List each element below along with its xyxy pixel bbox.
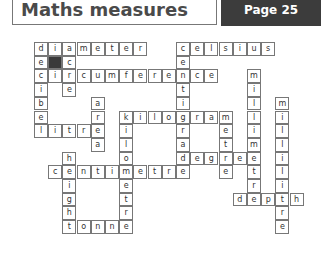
crossword-cell: m <box>219 111 233 125</box>
crossword-cell: i <box>247 83 261 97</box>
crossword-cell: p <box>261 193 275 207</box>
crossword-cell: s <box>219 42 233 56</box>
crossword-cell: t <box>275 193 289 207</box>
crossword-cell: d <box>176 152 190 166</box>
crossword-cell: h <box>62 152 76 166</box>
crossword-cell: l <box>247 111 261 125</box>
crossword-cell: e <box>176 56 190 70</box>
crossword-cell: e <box>119 179 133 193</box>
page-title: Maths measures <box>21 0 188 20</box>
crossword-cell: c <box>176 42 190 56</box>
crossword-cell: e <box>91 42 105 56</box>
crossword-cell: m <box>77 42 91 56</box>
title-box: Maths measures <box>12 0 217 25</box>
crossword-cell: b <box>34 97 48 111</box>
crossword-cell: e <box>190 152 204 166</box>
crossword-cell: e <box>34 56 48 70</box>
crossword-cell: m <box>247 69 261 83</box>
crossword-cell: l <box>247 97 261 111</box>
crossword-cell: r <box>91 111 105 125</box>
crossword-cell: g <box>176 111 190 125</box>
crossword-cell: i <box>48 69 62 83</box>
crossword-cell: r <box>77 124 91 138</box>
crossword-cell: r <box>190 111 204 125</box>
crossword-cell: i <box>34 83 48 97</box>
crossword-cell: m <box>275 97 289 111</box>
crossword-cell: a <box>91 97 105 111</box>
crossword-cell: c <box>77 69 91 83</box>
crossword-cell: e <box>247 193 261 207</box>
crossword-cell: r <box>162 165 176 179</box>
crossword-cell: o <box>119 152 133 166</box>
crossword-cell: l <box>275 124 289 138</box>
crossword-cell: g <box>204 152 218 166</box>
crossword-cell: m <box>105 69 119 83</box>
crossword-cell: s <box>261 42 275 56</box>
crossword-cell: i <box>176 97 190 111</box>
crossword-cell: i <box>275 152 289 166</box>
crossword-cell: c <box>190 69 204 83</box>
crossword-cell: a <box>91 138 105 152</box>
crossword-cell: i <box>48 42 62 56</box>
crossword-cell: i <box>247 124 261 138</box>
crossword-cell: c <box>62 56 76 70</box>
crossword-cell: h <box>62 206 76 220</box>
crossword-cell: e <box>275 220 289 234</box>
crossword-cell: m <box>119 165 133 179</box>
crossword-cell: o <box>77 220 91 234</box>
crossword-cell: n <box>105 220 119 234</box>
crossword-cell: c <box>48 165 62 179</box>
crossword-cell: t <box>105 42 119 56</box>
crossword-cell: i <box>133 111 147 125</box>
crossword-cell: a <box>204 111 218 125</box>
crossword-cell: u <box>247 42 261 56</box>
crossword-cell: r <box>275 206 289 220</box>
crossword-cell: r <box>247 179 261 193</box>
crossword-cell: e <box>219 165 233 179</box>
crossword-cell: l <box>204 42 218 56</box>
crossword-cell: t <box>62 220 76 234</box>
crossword-cell: l <box>34 124 48 138</box>
crossword-cell: e <box>119 42 133 56</box>
crossword-cell: e <box>204 69 218 83</box>
crossword-cell: r <box>133 42 147 56</box>
crossword-cell: t <box>176 83 190 97</box>
crossword-cell: g <box>62 193 76 207</box>
crossword-cell: l <box>275 165 289 179</box>
crossword-cell: i <box>62 179 76 193</box>
shaded-cell <box>48 56 62 70</box>
crossword-cell: r <box>119 206 133 220</box>
crossword-cell: e <box>190 42 204 56</box>
crossword-cell: a <box>176 138 190 152</box>
crossword-cell: e <box>133 165 147 179</box>
crossword-cell: t <box>62 124 76 138</box>
crossword-cell: n <box>176 69 190 83</box>
crossword-cell: e <box>62 83 76 97</box>
crossword-cell: e <box>34 111 48 125</box>
crossword-cell: e <box>233 152 247 166</box>
crossword-cell: c <box>34 69 48 83</box>
crossword-cell: n <box>77 165 91 179</box>
crossword-cell: l <box>119 138 133 152</box>
crossword-cell: r <box>62 69 76 83</box>
crossword-cell: t <box>219 138 233 152</box>
crossword-cell: i <box>105 165 119 179</box>
crossword-cell: d <box>34 42 48 56</box>
crossword-cell: i <box>119 124 133 138</box>
crossword-cell: d <box>233 193 247 207</box>
crossword-cell: o <box>162 111 176 125</box>
crossword-cell: r <box>176 124 190 138</box>
crossword-cell: e <box>247 152 261 166</box>
crossword-cell: h <box>290 193 304 207</box>
crossword-cell: r <box>148 69 162 83</box>
crossword-cell: u <box>91 69 105 83</box>
crossword-cell: e <box>119 220 133 234</box>
crossword-cell: f <box>119 69 133 83</box>
page-number-box: Page 25 <box>221 0 321 26</box>
crossword-cell: t <box>91 165 105 179</box>
crossword-cell: e <box>219 124 233 138</box>
crossword-cell: e <box>62 165 76 179</box>
crossword-cell: l <box>275 138 289 152</box>
crossword-cell: e <box>91 124 105 138</box>
crossword-cell: i <box>48 124 62 138</box>
